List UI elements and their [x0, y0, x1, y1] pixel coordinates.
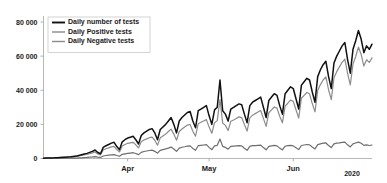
- legend-label: Daily Negative tests: [68, 37, 134, 45]
- y-axis: 020 00040 00060 00080 000: [16, 16, 43, 162]
- y-axis-tick-label: 40 000: [16, 87, 38, 94]
- x-axis-tick-label: Apr: [121, 164, 134, 173]
- year-label: 2020: [344, 170, 360, 177]
- x-axis-tick-label: Jun: [287, 164, 301, 173]
- y-axis-tick-label: 20 000: [16, 121, 38, 128]
- x-axis: AprMayJun: [44, 159, 373, 173]
- legend-label: Daily number of tests: [68, 18, 139, 26]
- legend-label: Daily Positive tests: [68, 28, 132, 36]
- y-axis-tick-label: 0: [34, 155, 38, 162]
- y-axis-tick-label: 60 000: [16, 53, 38, 60]
- chart-legend: Daily number of testsDaily Positive test…: [48, 17, 150, 53]
- series-line: [44, 139, 373, 158]
- x-axis-tick-label: May: [202, 164, 217, 173]
- chart-container: 020 00040 00060 00080 000 AprMayJun Dail…: [0, 0, 387, 183]
- series-line: [44, 47, 373, 158]
- line-chart-svg: 020 00040 00060 00080 000 AprMayJun Dail…: [0, 0, 387, 183]
- y-axis-tick-label: 80 000: [16, 19, 38, 26]
